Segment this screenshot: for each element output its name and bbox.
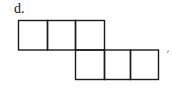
square-net-diagram <box>0 0 172 104</box>
net-square <box>19 21 48 51</box>
net-square <box>76 21 105 51</box>
net-square <box>131 50 159 80</box>
net-square <box>105 50 131 80</box>
tick-mark <box>168 51 169 54</box>
net-square <box>48 21 76 51</box>
net-square <box>76 50 105 80</box>
